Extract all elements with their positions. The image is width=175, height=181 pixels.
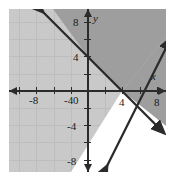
- x-tick: [157, 87, 158, 94]
- x-tick-label-pos8: 8: [154, 97, 160, 108]
- graph-figure: -8 -4 4 8 8 4 -4 -8 0 y x: [0, 0, 175, 181]
- y-tick: [84, 22, 91, 23]
- x-tick-label-neg8: -8: [29, 95, 38, 106]
- y-axis-down-arrow: [84, 164, 92, 172]
- x-axis-right-arrow: [158, 87, 166, 95]
- coordinate-plane: -8 -4 4 8 8 4 -4 -8 0 y x: [9, 9, 166, 172]
- x-tick-label-neg4: -4: [64, 95, 73, 106]
- y-tick: [84, 108, 91, 109]
- x-tick: [36, 87, 37, 94]
- x-tick: [140, 87, 141, 94]
- y-tick: [84, 142, 91, 143]
- y-tick-label-pos4: 4: [73, 52, 79, 63]
- y-tick: [84, 56, 91, 57]
- y-tick: [84, 74, 91, 75]
- x-axis-label: x: [151, 71, 156, 82]
- x-tick-label-pos4: 4: [119, 97, 125, 108]
- y-axis-label: y: [93, 13, 98, 24]
- y-tick-label-neg4: -4: [67, 121, 76, 132]
- x-tick: [19, 87, 20, 94]
- axis-arrowheads: [9, 9, 166, 172]
- y-tick-label-pos8: 8: [73, 17, 79, 28]
- x-tick: [71, 87, 72, 94]
- origin-label: 0: [73, 95, 79, 106]
- y-tick: [84, 160, 91, 161]
- x-axis-left-arrow: [9, 87, 17, 95]
- y-tick: [84, 39, 91, 40]
- y-tick-label-neg8: -8: [67, 156, 76, 167]
- y-axis-up-arrow: [84, 9, 92, 17]
- x-tick: [54, 87, 55, 94]
- x-tick: [105, 87, 106, 94]
- x-tick: [122, 87, 123, 94]
- y-tick: [84, 125, 91, 126]
